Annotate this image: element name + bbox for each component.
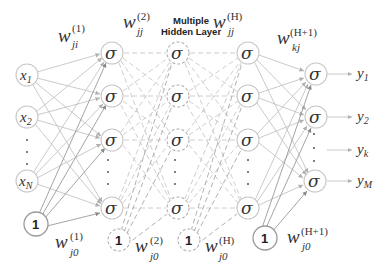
output-y2: y2 bbox=[355, 108, 369, 126]
svg-text:(H+1): (H+1) bbox=[290, 26, 317, 39]
hidden1-node: σ bbox=[101, 129, 123, 151]
svg-text:σ: σ bbox=[308, 171, 320, 191]
svg-text:1: 1 bbox=[115, 233, 122, 248]
svg-text:w: w bbox=[287, 226, 300, 247]
svg-text:w: w bbox=[205, 235, 218, 256]
svg-text:(H+1): (H+1) bbox=[301, 225, 328, 238]
svg-text:(H): (H) bbox=[219, 234, 235, 247]
svg-text:w: w bbox=[213, 11, 226, 32]
svg-text:ji: ji bbox=[70, 38, 78, 50]
hidden-layer-H: σ σ σ σ 1 bbox=[237, 42, 277, 250]
hidden2-node: σ bbox=[167, 197, 189, 219]
bias-node-hiddenH: 1 bbox=[253, 226, 277, 250]
output-arrows bbox=[327, 74, 352, 181]
hidden2-ellipsis bbox=[174, 159, 176, 185]
edges-hiddenH-to-output bbox=[255, 55, 311, 232]
weight-label-w20: w (2) j0 bbox=[135, 234, 163, 262]
output-yk: yk bbox=[355, 141, 369, 159]
svg-text:σ: σ bbox=[241, 198, 253, 218]
output-y1: y1 bbox=[355, 65, 369, 83]
neural-network-diagram: x1 x2 xN 1 σ σ σ σ 1 bbox=[0, 0, 387, 269]
svg-text:(1): (1) bbox=[72, 22, 85, 35]
hidden1-node: σ bbox=[101, 42, 123, 64]
hiddenH-node: σ bbox=[237, 129, 259, 151]
input-node-x2: x2 bbox=[16, 106, 38, 128]
svg-text:σ: σ bbox=[171, 198, 183, 218]
weight-label-wH10: w (H+1) j0 bbox=[287, 225, 328, 252]
bias-node-input: 1 bbox=[24, 212, 48, 236]
input-layer: x1 x2 xN 1 bbox=[16, 64, 48, 236]
output-node: σ bbox=[305, 63, 327, 85]
hiddenH-ellipsis bbox=[247, 159, 249, 185]
hidden2-node: σ bbox=[167, 42, 189, 64]
svg-text:jj: jj bbox=[226, 25, 234, 37]
hidden-layer-1: σ σ σ σ 1 bbox=[101, 42, 130, 251]
weight-label-w10: w (1) j0 bbox=[55, 230, 83, 258]
hidden1-node: σ bbox=[101, 85, 123, 107]
weight-label-wH0: w (H) j0 bbox=[205, 234, 235, 262]
svg-text:σ: σ bbox=[241, 130, 253, 150]
weight-label-w1: w (1) ji bbox=[58, 22, 85, 50]
edges-hidden1-to-hidden2 bbox=[119, 53, 172, 245]
output-labels: y1 y2 yk yM bbox=[355, 65, 373, 190]
input-ellipsis bbox=[26, 139, 28, 165]
hidden2-node: σ bbox=[167, 129, 189, 151]
svg-text:σ: σ bbox=[171, 130, 183, 150]
svg-text:σ: σ bbox=[105, 86, 117, 106]
svg-text:kj: kj bbox=[292, 41, 300, 53]
svg-text:w: w bbox=[58, 25, 71, 46]
svg-text:(H): (H) bbox=[227, 10, 243, 23]
bias-node-hidden1: 1 bbox=[108, 229, 130, 251]
svg-text:1: 1 bbox=[261, 231, 268, 246]
hidden1-node: σ bbox=[101, 197, 123, 219]
svg-text:j0: j0 bbox=[148, 250, 159, 262]
hidden2-node: σ bbox=[167, 85, 189, 107]
svg-text:σ: σ bbox=[171, 86, 183, 106]
svg-text:σ: σ bbox=[105, 43, 117, 63]
svg-text:σ: σ bbox=[171, 43, 183, 63]
svg-text:w: w bbox=[123, 11, 136, 32]
svg-text:σ: σ bbox=[241, 86, 253, 106]
output-node: σ bbox=[304, 170, 326, 192]
svg-text:1: 1 bbox=[32, 217, 39, 232]
svg-text:j0: j0 bbox=[217, 250, 228, 262]
output-yM: yM bbox=[355, 172, 373, 190]
svg-text:(2): (2) bbox=[150, 234, 163, 247]
svg-text:(2): (2) bbox=[137, 10, 150, 23]
hiddenH-node: σ bbox=[237, 85, 259, 107]
input-node-x1: x1 bbox=[16, 64, 38, 86]
output-ellipsis bbox=[313, 133, 315, 162]
svg-text:w: w bbox=[55, 231, 68, 252]
svg-text:Multiple: Multiple bbox=[173, 15, 209, 26]
output-layer: σ σ σ bbox=[304, 63, 327, 192]
input-node-xN: xN bbox=[16, 170, 38, 192]
svg-text:(1): (1) bbox=[70, 230, 83, 243]
edges-input-to-hidden1 bbox=[33, 54, 106, 226]
svg-text:j0: j0 bbox=[68, 246, 79, 258]
svg-text:σ: σ bbox=[105, 198, 117, 218]
weight-label-wH1: w (H+1) kj bbox=[277, 26, 317, 53]
svg-text:σ: σ bbox=[309, 107, 321, 127]
svg-text:1: 1 bbox=[185, 233, 192, 248]
hidden-layer-2: σ σ σ σ 1 bbox=[167, 42, 200, 251]
bias-node-hidden2: 1 bbox=[178, 229, 200, 251]
output-node: σ bbox=[305, 106, 327, 128]
hiddenH-node: σ bbox=[237, 42, 259, 64]
svg-text:w: w bbox=[277, 27, 290, 48]
svg-text:j0: j0 bbox=[300, 240, 311, 252]
weight-label-w2: w (2) jj bbox=[123, 10, 150, 37]
svg-text:σ: σ bbox=[241, 43, 253, 63]
svg-text:w: w bbox=[135, 235, 148, 256]
edges-hidden2-to-hiddenH bbox=[185, 53, 242, 245]
hidden1-ellipsis bbox=[107, 159, 109, 185]
svg-text:jj: jj bbox=[135, 25, 143, 37]
svg-text:σ: σ bbox=[105, 130, 117, 150]
svg-text:σ: σ bbox=[309, 64, 321, 84]
hiddenH-node: σ bbox=[237, 197, 259, 219]
